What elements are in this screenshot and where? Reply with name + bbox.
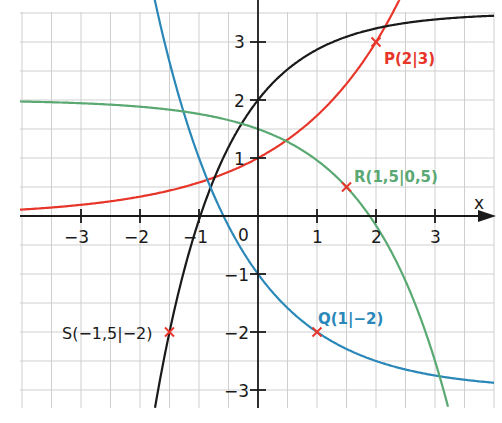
x-tick-label-p3: 3 — [430, 227, 441, 247]
x-axis-label: x — [474, 193, 484, 213]
point-label-r: R(1,5|0,5) — [354, 168, 438, 187]
x-tick-label-p2: 2 — [371, 227, 382, 247]
y-tick-label-p3: 3 — [234, 32, 245, 52]
origin-label: 0 — [238, 225, 249, 245]
x-tick-label-m3: −3 — [64, 227, 89, 247]
y-tick-label-m1: −1 — [224, 265, 249, 285]
y-tick-label-m2: −2 — [224, 323, 249, 343]
x-tick-label-m1: −1 — [183, 227, 208, 247]
point-label-s: S(−1,5|−2) — [62, 324, 152, 343]
point-label-q: Q(1|−2) — [318, 310, 383, 329]
curve-red — [20, 0, 401, 210]
y-tick-label-p2: 2 — [234, 91, 245, 111]
y-tick-label-m3: −3 — [224, 381, 249, 401]
x-tick-label-m2: −2 — [124, 227, 149, 247]
function-graph: x 0 −3 −2 −1 1 2 3 3 2 1 −1 −2 −3 P(2|3)… — [0, 0, 502, 423]
point-label-p: P(2|3) — [384, 50, 435, 69]
y-tick-label-p1: 1 — [234, 149, 245, 169]
x-tick-label-p1: 1 — [312, 227, 323, 247]
curve-black — [155, 16, 494, 408]
grid — [20, 12, 494, 408]
